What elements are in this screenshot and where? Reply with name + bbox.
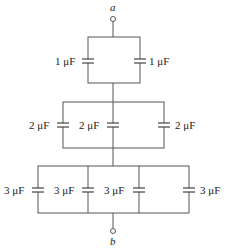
capacitor-label: 1 μF	[149, 55, 169, 67]
terminal-b-icon	[111, 229, 116, 234]
terminal-b-label: b	[110, 235, 116, 247]
terminal-a-icon	[111, 17, 116, 22]
capacitor-label: 2 μF	[175, 119, 195, 131]
circuit-diagram: a 1 μF 1 μF 2 μF 2 μF 2 μF	[0, 0, 226, 248]
capacitor-label: 2 μF	[29, 119, 49, 131]
capacitor-label: 2 μF	[79, 119, 99, 131]
capacitor-label: 1 μF	[55, 55, 75, 67]
bottom-parallel-group: 3 μF 3 μF 3 μF 3 μF	[4, 166, 220, 213]
capacitor-label: 3 μF	[200, 184, 220, 196]
capacitor-label: 3 μF	[4, 184, 24, 196]
terminal-a-label: a	[110, 1, 116, 13]
capacitor-label: 3 μF	[104, 184, 124, 196]
top-parallel-group: 1 μF 1 μF	[55, 37, 169, 83]
middle-parallel-group: 2 μF 2 μF 2 μF	[29, 102, 195, 148]
capacitor-label: 3 μF	[54, 184, 74, 196]
